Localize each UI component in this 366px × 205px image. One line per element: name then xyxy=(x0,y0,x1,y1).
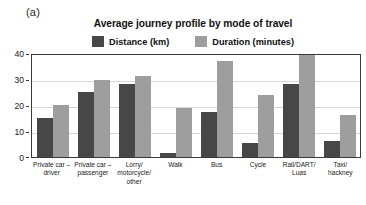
bar-distance xyxy=(242,143,258,157)
x-axis-label: Cycle xyxy=(237,161,278,186)
bar-duration xyxy=(135,76,151,157)
bar-distance xyxy=(324,141,340,157)
x-axis-label: Private car – driver xyxy=(31,161,72,186)
x-axis-label: Walk xyxy=(155,161,196,186)
bar-distance xyxy=(201,112,217,158)
legend-item-duration: Duration (minutes) xyxy=(195,36,294,47)
bar-duration xyxy=(94,80,110,157)
x-axis-labels: Private car – driverPrivate car – passen… xyxy=(31,161,361,186)
bars-layer xyxy=(32,55,360,157)
bar-duration xyxy=(299,54,315,157)
y-tick-label: 0 xyxy=(19,154,24,163)
bar-group xyxy=(73,55,114,157)
legend-swatch-duration xyxy=(195,36,207,47)
bar-duration xyxy=(258,95,274,157)
bar-group xyxy=(155,55,196,157)
bar-distance xyxy=(283,84,299,157)
chart-title: Average journey profile by mode of trave… xyxy=(33,18,353,29)
x-axis-label: Bus xyxy=(196,161,237,186)
x-axis-label: Lorry/ motorcycle/ other xyxy=(114,161,155,186)
y-tick-mark xyxy=(26,80,29,81)
x-axis-label: Taxi/ hackney xyxy=(320,161,361,186)
bar-duration xyxy=(176,108,192,157)
y-tick-label: 10 xyxy=(14,128,24,137)
y-tick-label: 20 xyxy=(14,102,24,111)
legend-label-distance: Distance (km) xyxy=(109,37,169,47)
bar-group xyxy=(278,55,319,157)
legend-swatch-distance xyxy=(92,36,104,47)
bar-group xyxy=(196,55,237,157)
bar-duration xyxy=(53,105,69,157)
y-tick-mark xyxy=(26,132,29,133)
x-axis-label: Rail/DART/ Luas xyxy=(279,161,320,186)
bar-distance xyxy=(160,153,176,157)
plot-wrapper xyxy=(31,54,361,158)
panel-label: (a) xyxy=(26,6,40,18)
bar-group xyxy=(114,55,155,157)
y-tick-label: 30 xyxy=(14,76,24,85)
legend-label-duration: Duration (minutes) xyxy=(212,37,294,47)
plot-area xyxy=(31,54,361,158)
bar-group xyxy=(237,55,278,157)
bar-duration xyxy=(217,61,233,157)
bar-group xyxy=(319,55,360,157)
figure-panel: (a) Average journey profile by mode of t… xyxy=(0,0,366,205)
bar-group xyxy=(32,55,73,157)
y-tick-mark xyxy=(26,157,29,158)
chart-legend: Distance (km) Duration (minutes) xyxy=(33,36,353,47)
legend-item-distance: Distance (km) xyxy=(92,36,169,47)
bar-duration xyxy=(340,115,356,157)
bar-distance xyxy=(78,92,94,157)
y-tick-label: 40 xyxy=(14,50,24,59)
x-axis-label: Private car – passenger xyxy=(72,161,113,186)
y-axis: 010203040 xyxy=(0,54,29,158)
y-tick-mark xyxy=(26,106,29,107)
y-tick-mark xyxy=(26,54,29,55)
bar-distance xyxy=(37,118,53,157)
bar-distance xyxy=(119,84,135,157)
